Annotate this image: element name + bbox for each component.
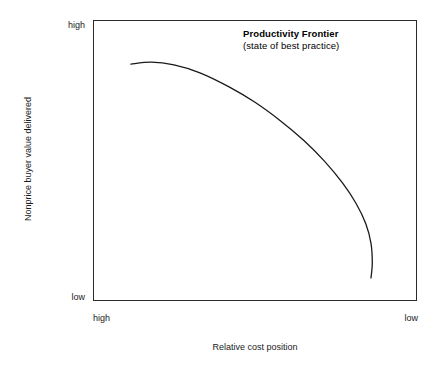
y-axis-title: Nonprice buyer value delivered — [21, 74, 35, 244]
x-axis-title: Relative cost position — [93, 342, 417, 352]
x-axis-tick-high: high — [93, 313, 133, 323]
y-axis-title-wrapper: Nonprice buyer value delivered — [21, 74, 35, 244]
x-axis-tick-low: low — [382, 313, 418, 323]
plot-frame — [93, 20, 417, 301]
annotation-title: Productivity Frontier — [243, 28, 413, 40]
annotation-subtitle: (state of best practice) — [243, 40, 413, 52]
chart-figure: Productivity Frontier (state of best pra… — [0, 0, 440, 371]
y-axis-tick-low: low — [52, 292, 85, 302]
productivity-frontier-annotation: Productivity Frontier (state of best pra… — [243, 28, 413, 52]
y-axis-tick-high: high — [52, 20, 85, 30]
